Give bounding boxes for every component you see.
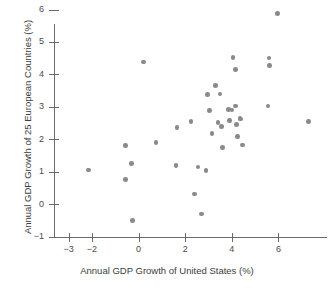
data-point [220, 145, 225, 150]
data-point [130, 218, 135, 223]
x-axis-label: Annual GDP Growth of United States (%) [0, 265, 334, 276]
data-point [267, 63, 272, 68]
y-tick-mark [49, 237, 59, 238]
data-point [233, 67, 238, 72]
x-tick-mark [232, 233, 233, 242]
data-point [129, 161, 134, 166]
data-point [235, 134, 240, 139]
data-point [207, 108, 212, 113]
data-point [234, 122, 239, 127]
y-tick-mark [49, 172, 59, 173]
data-point [199, 212, 204, 217]
x-tick-label: 0 [129, 245, 149, 254]
x-tick-label: 6 [268, 245, 288, 254]
x-tick-label: 2 [175, 245, 195, 254]
x-tick-mark [69, 233, 70, 242]
data-point [275, 11, 280, 16]
x-tick-label: −3 [59, 245, 79, 254]
data-point [233, 104, 238, 109]
data-point [210, 131, 215, 136]
y-tick-mark [49, 139, 59, 140]
data-point [174, 163, 179, 168]
data-point [227, 118, 232, 123]
y-tick-mark [49, 42, 59, 43]
data-point [306, 119, 311, 124]
x-tick-mark [139, 233, 140, 242]
y-axis-line [54, 24, 55, 238]
data-point [240, 143, 245, 148]
y-tick-mark [49, 107, 59, 108]
y-axis-label: Annual GDP Growth of 25 European Countri… [21, 7, 35, 247]
data-point [175, 125, 180, 130]
y-tick-mark [49, 10, 59, 11]
data-point [231, 55, 236, 60]
x-tick-label: 4 [222, 245, 242, 254]
y-tick-mark [49, 204, 59, 205]
data-point [219, 124, 224, 129]
x-axis-line [54, 237, 327, 238]
data-point [189, 119, 194, 124]
x-tick-mark [185, 233, 186, 242]
scatter-plot-figure: −10123456 −3−20246 Annual GDP Growth of … [0, 0, 334, 293]
data-point [205, 92, 210, 97]
x-tick-mark [92, 233, 93, 242]
x-tick-mark [278, 233, 279, 242]
plot-area [54, 22, 326, 237]
x-tick-label: −2 [82, 245, 102, 254]
data-point [213, 83, 218, 88]
y-tick-mark [49, 74, 59, 75]
y-axis-label-wrapper: Annual GDP Growth of 25 European Countri… [21, 7, 35, 247]
data-point [192, 192, 197, 197]
data-point [123, 177, 128, 182]
